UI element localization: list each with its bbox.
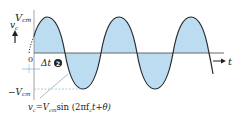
delta-t-label: Δt [40,58,51,68]
equation-leader [40,74,68,98]
phase-dotted [29,36,34,53]
equation: vc=Vcmsin (2πfct+θ) [28,102,111,113]
t-axis-label: t [228,56,233,67]
origin-label: 0 [28,55,33,64]
vcm-label: Vcm [15,12,32,23]
vc-arrowhead [12,30,18,36]
t-arrowhead [221,59,226,64]
neg-vcm-label: −Vcm [8,87,30,97]
marker-2-label: 2 [56,60,60,67]
waveform-diagram: 2 Vcm vc 0 Δt −Vcm t vc=Vcmsin (2πfct+θ) [0,0,239,120]
